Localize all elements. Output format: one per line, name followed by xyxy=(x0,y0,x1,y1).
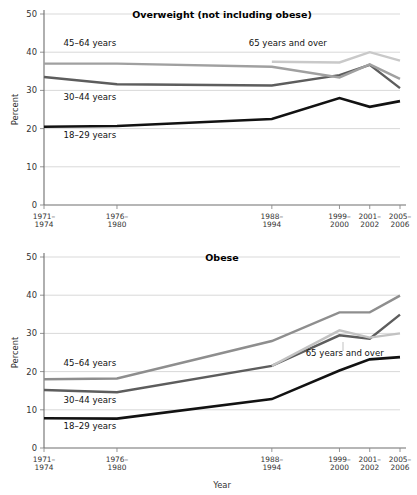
y-axis-tick-label: 0 xyxy=(32,443,37,453)
x-axis-tick-label: 1994 xyxy=(262,463,281,472)
chart-title: Overweight (not including obese) xyxy=(132,9,312,20)
series-annotation-label: 45–64 years xyxy=(64,358,117,368)
series-annotation-label: 18–29 years xyxy=(64,421,117,431)
y-axis-title: Percent xyxy=(10,336,20,368)
x-axis-tick-label: 2002 xyxy=(360,220,379,229)
y-axis-tick-label: 50 xyxy=(26,9,37,19)
y-axis-tick-label: 40 xyxy=(26,47,37,57)
series-annotation-label: 30–44 years xyxy=(64,92,117,102)
y-axis-tick-label: 50 xyxy=(26,252,37,262)
chart-figure: 010203040501971–19741976–19801988–199419… xyxy=(0,0,417,495)
x-axis-title: Year xyxy=(212,480,231,490)
y-axis-tick-label: 20 xyxy=(26,124,37,134)
y-axis-tick-label: 30 xyxy=(26,328,37,338)
x-axis-tick-label: 1974 xyxy=(35,463,54,472)
y-axis-tick-label: 20 xyxy=(26,367,37,377)
x-axis-tick-label: 1980 xyxy=(108,220,127,229)
x-axis-tick-label: 2000 xyxy=(330,220,349,229)
y-axis-title: Percent xyxy=(10,93,20,125)
x-axis-tick-label: 2006 xyxy=(391,220,410,229)
chart-panel-overweight: 010203040501971–19741976–19801988–199419… xyxy=(0,0,417,240)
overweight-chart-svg: 010203040501971–19741976–19801988–199419… xyxy=(0,0,417,240)
obese-chart-svg: 010203040501971–19741976–19801988–199419… xyxy=(0,245,417,495)
series-annotation-label: 65 years and over xyxy=(306,348,385,358)
x-axis-tick-label: 2000 xyxy=(330,463,349,472)
chart-panel-obese: 010203040501971–19741976–19801988–199419… xyxy=(0,245,417,495)
series-annotation-label: 65 years and over xyxy=(249,38,328,48)
y-axis-tick-label: 10 xyxy=(26,162,37,172)
series-line-18-29-years xyxy=(44,98,400,127)
series-line-30-44-years xyxy=(44,65,400,88)
series-annotation-label: 30–44 years xyxy=(64,395,117,405)
y-axis-tick-label: 30 xyxy=(26,85,37,95)
x-axis-tick-label: 1980 xyxy=(108,463,127,472)
series-annotation-label: 18–29 years xyxy=(64,130,117,140)
y-axis-tick-label: 10 xyxy=(26,405,37,415)
x-axis-tick-label: 2002 xyxy=(360,463,379,472)
x-axis-tick-label: 2006 xyxy=(391,463,410,472)
y-axis-tick-label: 0 xyxy=(32,200,37,210)
series-line-45-64-years xyxy=(44,64,400,79)
chart-title: Obese xyxy=(205,252,238,263)
x-axis-tick-label: 1994 xyxy=(262,220,281,229)
y-axis-tick-label: 40 xyxy=(26,290,37,300)
series-line-65-years-and-over xyxy=(272,52,400,62)
series-annotation-label: 45–64 years xyxy=(64,38,117,48)
x-axis-tick-label: 1974 xyxy=(35,220,54,229)
